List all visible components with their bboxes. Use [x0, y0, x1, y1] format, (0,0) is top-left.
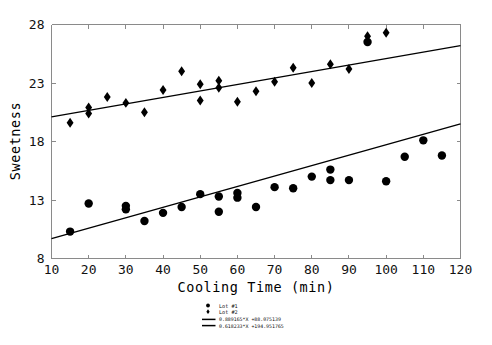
x-tick-label: 50	[192, 262, 208, 277]
data-point-circle	[289, 184, 297, 192]
data-point-circle	[177, 203, 185, 211]
data-point-diamond	[160, 85, 167, 95]
scatter-plot-figure: 102030405060708090100110120 813182328 Co…	[0, 0, 492, 345]
data-point-diamond	[197, 79, 204, 89]
series-lot-2	[67, 28, 390, 128]
x-tick-label: 80	[304, 262, 320, 277]
x-tick-label: 60	[230, 262, 246, 277]
legend-marker-circle	[206, 304, 210, 308]
data-point-circle	[252, 203, 260, 211]
y-tick-label: 18	[29, 134, 45, 149]
data-point-circle	[438, 151, 446, 159]
data-point-circle	[66, 227, 74, 235]
data-point-circle	[345, 176, 353, 184]
x-tick-label: 30	[118, 262, 134, 277]
data-point-circle	[140, 217, 148, 225]
x-tick-label: 70	[267, 262, 283, 277]
data-point-diamond	[234, 97, 241, 107]
x-tick-label: 90	[341, 262, 357, 277]
data-point-circle	[326, 165, 334, 173]
x-axis-ticks: 102030405060708090100110120	[44, 25, 473, 277]
data-point-diamond	[104, 92, 111, 102]
data-point-circle	[233, 193, 241, 201]
data-point-circle	[308, 172, 316, 180]
x-tick-label: 20	[81, 262, 97, 277]
x-tick-label: 100	[374, 262, 397, 277]
legend-equation-label: 0.618233*X +194.951765	[219, 323, 284, 329]
data-point-diamond	[178, 66, 185, 76]
y-tick-label: 28	[29, 17, 45, 32]
x-axis-label: Cooling Time (min)	[177, 279, 334, 295]
data-point-diamond	[67, 118, 74, 128]
data-point-diamond	[308, 78, 315, 88]
data-point-circle	[215, 208, 223, 216]
y-tick-label: 23	[29, 76, 45, 91]
data-point-circle	[382, 177, 390, 185]
legend-equation-label: 0.889165*X +88.075139	[219, 316, 281, 322]
legend-entry-label: Lot #2	[219, 309, 238, 315]
data-point-diamond	[215, 83, 222, 93]
data-point-circle	[122, 202, 130, 210]
y-tick-label: 8	[37, 251, 45, 266]
data-point-diamond	[383, 28, 390, 38]
regression-line	[52, 46, 461, 117]
plot-canvas: 102030405060708090100110120 813182328 Co…	[0, 0, 492, 345]
data-point-diamond	[122, 98, 129, 108]
data-point-diamond	[141, 107, 148, 117]
x-tick-label: 40	[155, 262, 171, 277]
data-point-diamond	[253, 86, 260, 96]
data-point-diamond	[197, 96, 204, 106]
data-point-circle	[270, 183, 278, 191]
data-point-circle	[419, 136, 427, 144]
data-points	[66, 28, 446, 236]
data-point-circle	[215, 192, 223, 200]
x-tick-label: 10	[44, 262, 60, 277]
x-tick-label: 120	[449, 262, 472, 277]
legend-entry-label: Lot #1	[219, 303, 238, 309]
regression-line	[52, 124, 461, 239]
y-axis-label: Sweetness	[7, 102, 23, 181]
x-tick-label: 110	[412, 262, 435, 277]
series-lot-1	[66, 38, 446, 236]
data-point-circle	[326, 176, 334, 184]
data-point-diamond	[290, 63, 297, 73]
data-point-circle	[159, 209, 167, 217]
chart-legend: Lot #1Lot #20.889165*X +88.0751390.61823…	[202, 303, 284, 329]
y-tick-label: 13	[29, 193, 45, 208]
data-point-circle	[196, 190, 204, 198]
data-point-circle	[84, 199, 92, 207]
legend-marker-diamond	[206, 309, 209, 314]
data-point-circle	[401, 153, 409, 161]
